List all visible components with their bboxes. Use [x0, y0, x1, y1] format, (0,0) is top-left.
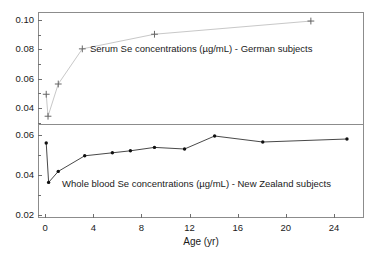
- serum-y-tick-mark: [38, 108, 42, 109]
- blood-panel: [38, 124, 364, 218]
- blood-y-tick-mark: [38, 175, 42, 176]
- serum-y-minor-tick: [38, 64, 41, 65]
- serum-y-minor-tick: [38, 35, 41, 36]
- serum-y-tick-mark: [38, 49, 42, 50]
- x-tick-label: 24: [329, 223, 340, 233]
- x-tick-mark: [141, 214, 142, 218]
- serum-data-point: [307, 18, 314, 25]
- blood-annotation: Whole blood Se concentrations (µg/mL) - …: [62, 178, 331, 189]
- x-tick-mark: [93, 214, 94, 218]
- blood-data-point: [83, 154, 86, 157]
- blood-data-point: [47, 181, 50, 184]
- serum-data-point: [43, 91, 50, 98]
- x-tick-label: 20: [281, 223, 292, 233]
- x-tick-label: 16: [232, 223, 243, 233]
- blood-line: [46, 136, 347, 182]
- x-tick-mark: [190, 214, 191, 218]
- blood-y-tick-mark: [38, 135, 42, 136]
- blood-data-point: [45, 141, 48, 144]
- x-tick-mark: [334, 214, 335, 218]
- serum-data-point: [45, 113, 52, 120]
- serum-annotation: Serum Se concentrations (µg/mL) - German…: [90, 43, 312, 54]
- serum-y-minor-tick: [38, 93, 41, 94]
- serum-y-tick-label: 0.04: [16, 103, 35, 113]
- serum-y-tick-label: 0.10: [16, 15, 35, 25]
- blood-data-point: [183, 147, 186, 150]
- blood-y-minor-tick: [38, 155, 41, 156]
- blood-data-point: [345, 137, 348, 140]
- blood-y-tick-mark: [38, 215, 42, 216]
- blood-y-minor-tick: [38, 195, 41, 196]
- x-tick-mark: [238, 214, 239, 218]
- serum-series-svg: [39, 13, 365, 125]
- x-axis-title: Age (yr): [38, 237, 364, 247]
- chart-figure: Serum Se concentrations (µg/mL) - German…: [0, 0, 371, 255]
- serum-panel: [38, 12, 364, 124]
- x-tick-label: 0: [43, 223, 48, 233]
- blood-series-svg: [39, 125, 365, 219]
- serum-data-point: [79, 45, 86, 52]
- serum-y-minor-tick: [38, 20, 41, 21]
- serum-y-tick-label: 0.08: [16, 44, 35, 54]
- blood-data-point: [153, 146, 156, 149]
- blood-data-point: [111, 151, 114, 154]
- x-tick-label: 4: [91, 223, 96, 233]
- blood-data-point: [261, 140, 264, 143]
- blood-data-point: [57, 170, 60, 173]
- x-tick-label: 8: [139, 223, 144, 233]
- serum-y-tick-mark: [38, 79, 42, 80]
- serum-y-minor-tick: [38, 123, 41, 124]
- x-tick-mark: [286, 214, 287, 218]
- blood-data-point: [213, 134, 216, 137]
- blood-y-tick-label: 0.04: [16, 170, 35, 180]
- blood-y-tick-label: 0.06: [16, 130, 35, 140]
- blood-plot-area: [39, 125, 363, 217]
- serum-data-point: [151, 31, 158, 38]
- blood-data-point: [129, 149, 132, 152]
- serum-data-point: [55, 81, 62, 88]
- x-tick-mark: [45, 214, 46, 218]
- blood-y-tick-label: 0.02: [16, 210, 35, 220]
- serum-line: [46, 21, 311, 116]
- serum-plot-area: [39, 13, 363, 124]
- serum-y-tick-label: 0.06: [16, 74, 35, 84]
- x-axis-tick-labels: 04812162024: [38, 223, 364, 235]
- x-tick-label: 12: [184, 223, 195, 233]
